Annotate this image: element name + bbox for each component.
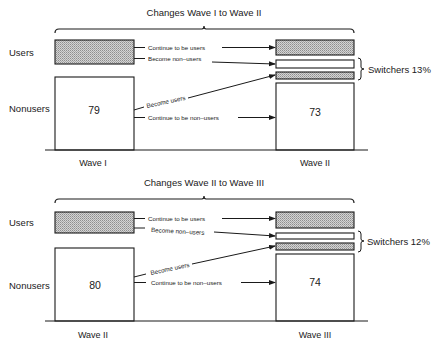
wave-label-left: Wave I	[79, 158, 107, 168]
flow-continue-nonusers: Continue to be non–users	[148, 114, 219, 121]
switchers-label: Switchers 13%	[368, 64, 431, 75]
wave-label-left: Wave II	[78, 330, 108, 340]
bar-became-nonusers-wave2	[276, 60, 354, 68]
bar-users-wave2	[55, 212, 134, 233]
flow-become-users: Become users	[150, 261, 190, 276]
value-nonusers-wave1: 79	[88, 104, 100, 116]
panel-wave1-to-wave2: Changes Wave I to Wave II Users Nonusers…	[9, 7, 431, 168]
bar-users-wave2	[276, 40, 354, 55]
flow-become-nonusers: Become non–users	[151, 226, 205, 236]
flow-continue-nonusers: Continue to be non–users	[151, 279, 222, 286]
panel-title: Changes Wave II to Wave III	[144, 177, 264, 188]
arrow-become-nonusers	[212, 62, 275, 64]
switchers-label: Switchers 12%	[367, 236, 430, 247]
brace	[55, 26, 354, 33]
value-nonusers-wave3: 74	[309, 276, 321, 288]
arrow-become-users	[188, 75, 275, 98]
flow-become-users: Become users	[146, 94, 186, 109]
panel-wave2-to-wave3: Changes Wave II to Wave III Users Nonuse…	[9, 177, 430, 340]
switchers-diagram: Changes Wave I to Wave II Users Nonusers…	[0, 0, 445, 355]
row-label-users: Users	[9, 47, 34, 58]
bar-became-users-wave2	[276, 72, 354, 79]
flow-become-nonusers: Become non–users	[148, 55, 201, 62]
row-label-nonusers: Nonusers	[9, 103, 50, 114]
bar-became-nonusers-wave3	[276, 233, 354, 239]
brace	[55, 196, 354, 203]
flow-continue-users: Continue to be users	[148, 44, 205, 51]
bar-became-users-wave3	[276, 243, 354, 250]
row-label-users: Users	[9, 217, 34, 228]
arrow-become-users	[192, 246, 275, 264]
flow-continue-users: Continue to be users	[148, 215, 205, 222]
panel-title: Changes Wave I to Wave II	[147, 7, 262, 18]
row-label-nonusers: Nonusers	[9, 280, 50, 291]
wave-label-right: Wave III	[299, 330, 332, 340]
switchers-brace	[358, 231, 364, 252]
value-nonusers-wave2: 80	[89, 279, 101, 291]
switchers-brace	[358, 58, 364, 80]
wave-label-right: Wave II	[300, 158, 330, 168]
bar-users-wave3	[276, 212, 354, 228]
arrow-become-nonusers	[214, 232, 275, 236]
bar-users-wave1	[55, 40, 134, 64]
value-nonusers-wave2: 73	[309, 106, 321, 118]
